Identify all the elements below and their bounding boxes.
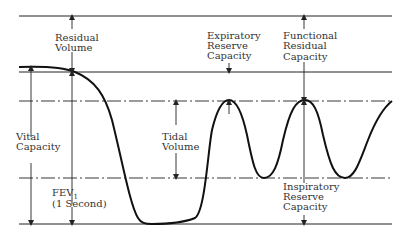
- svg-text:Residual: Residual: [283, 40, 327, 51]
- vital-capacity-label: Vital Capacity: [15, 131, 61, 152]
- svg-text:Capacity: Capacity: [283, 51, 328, 62]
- svg-text:(1 Second): (1 Second): [52, 198, 107, 209]
- svg-text:Volume: Volume: [54, 42, 92, 53]
- inspiratory-reserve-capacity-label: Inspiratory Reserve Capacity: [283, 181, 340, 212]
- residual-volume-label: Residual Volume: [54, 32, 99, 53]
- svg-text:Capacity: Capacity: [283, 201, 328, 212]
- svg-text:Volume: Volume: [161, 141, 199, 152]
- tidal-volume-label: Tidal Volume: [161, 131, 199, 152]
- svg-text:Capacity: Capacity: [207, 50, 252, 61]
- fev1-label: FEV1 (1 Second): [52, 187, 107, 209]
- functional-residual-capacity-label: Functional Residual Capacity: [283, 30, 337, 62]
- svg-text:Capacity: Capacity: [16, 141, 61, 152]
- expiratory-reserve-capacity-label: Expiratory Reserve Capacity: [207, 30, 261, 61]
- spirogram-diagram: Residual Volume Expiratory Reserve Capac…: [0, 0, 407, 236]
